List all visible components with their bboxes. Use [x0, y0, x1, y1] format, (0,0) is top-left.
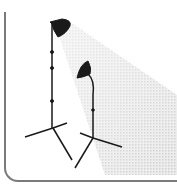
studio-lights-icon — [0, 0, 177, 184]
